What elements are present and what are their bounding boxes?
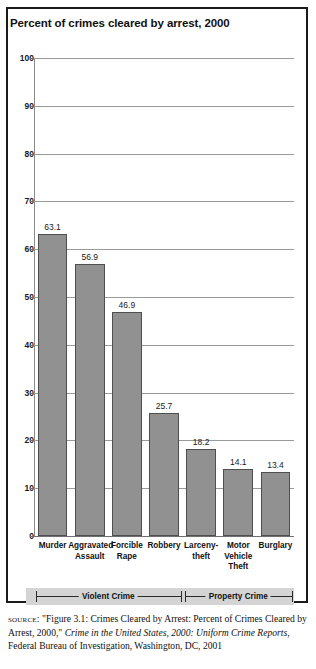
bar-value-label: 63.1 — [44, 222, 61, 232]
bar-value-label: 13.4 — [267, 460, 284, 470]
y-tick-label: 50 — [0, 292, 34, 302]
bar — [75, 264, 105, 536]
y-tick-label: 40 — [0, 340, 34, 350]
chart-title: Percent of crimes cleared by arrest, 200… — [10, 17, 230, 29]
bar — [261, 472, 291, 536]
x-tick-label-line: Vehicle — [217, 552, 260, 563]
y-tick-label: 100 — [0, 53, 34, 63]
y-tick-label: 90 — [0, 101, 34, 111]
plot-area: 0102030405060708090100 63.156.946.925.71… — [0, 58, 302, 536]
bar-value-label: 14.1 — [230, 457, 247, 467]
y-tick-label: 30 — [0, 388, 34, 398]
group-bracket-cap — [292, 591, 293, 602]
x-tick-label-line: Rape — [105, 552, 148, 563]
x-tick-label: Burglary — [254, 541, 297, 552]
axis-baseline — [34, 536, 294, 537]
bar-value-label: 56.9 — [81, 252, 98, 262]
x-tick-label-line: Theft — [217, 562, 260, 573]
x-axis-labels: MurderAggravatedAssaultForcibleRapeRobbe… — [34, 541, 294, 585]
bar — [38, 234, 68, 536]
x-tick-label-line: Burglary — [254, 541, 297, 552]
bar-value-label: 25.7 — [156, 401, 173, 411]
bar — [186, 449, 216, 536]
group-bracket-cap — [36, 591, 37, 602]
bar — [223, 469, 253, 536]
y-tick-label: 10 — [0, 483, 34, 493]
y-tick-label: 0 — [0, 531, 34, 541]
group-label: Property Crime — [206, 591, 271, 602]
bar — [112, 312, 142, 536]
y-tick-label: 20 — [0, 435, 34, 445]
source-note: source: "Figure 3.1: Crimes Cleared by A… — [8, 612, 310, 653]
bar — [149, 413, 179, 536]
y-tick-label: 80 — [0, 149, 34, 159]
y-tick-label: 70 — [0, 196, 34, 206]
y-axis-labels: 0102030405060708090100 — [0, 58, 34, 536]
group-bracket-cap — [181, 591, 182, 602]
source-label: source: — [8, 614, 40, 624]
y-tick-label: 60 — [0, 244, 34, 254]
bar-series: 63.156.946.925.718.214.113.4 — [34, 58, 294, 536]
group-band: Violent CrimeProperty Crime — [26, 588, 294, 605]
group-label: Violent Crime — [79, 591, 138, 602]
figure-root: Percent of crimes cleared by arrest, 200… — [0, 0, 316, 669]
y-tick-mark — [30, 536, 34, 537]
bar-value-label: 18.2 — [193, 437, 210, 447]
source-text-italic: Crime in the United States, 2000: Unifor… — [65, 627, 288, 638]
group-bracket-cap — [185, 591, 186, 602]
bar-value-label: 46.9 — [119, 300, 136, 310]
